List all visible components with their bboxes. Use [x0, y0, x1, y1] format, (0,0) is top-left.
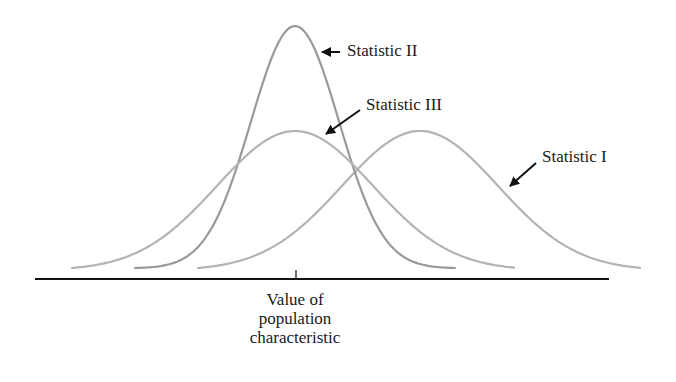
arrow-statistic-iii [326, 110, 360, 134]
label-statistic-iii: Statistic III [366, 96, 442, 113]
arrow-statistic-i [510, 163, 536, 186]
caption-line: Value of [245, 290, 345, 309]
label-statistic-i: Statistic I [542, 148, 607, 165]
caption-line: characteristic [245, 328, 345, 347]
x-axis-caption: Value of population characteristic [245, 290, 345, 347]
curve-statistic-iii [72, 131, 514, 268]
caption-line: population [245, 309, 345, 328]
label-statistic-ii: Statistic II [347, 42, 417, 59]
